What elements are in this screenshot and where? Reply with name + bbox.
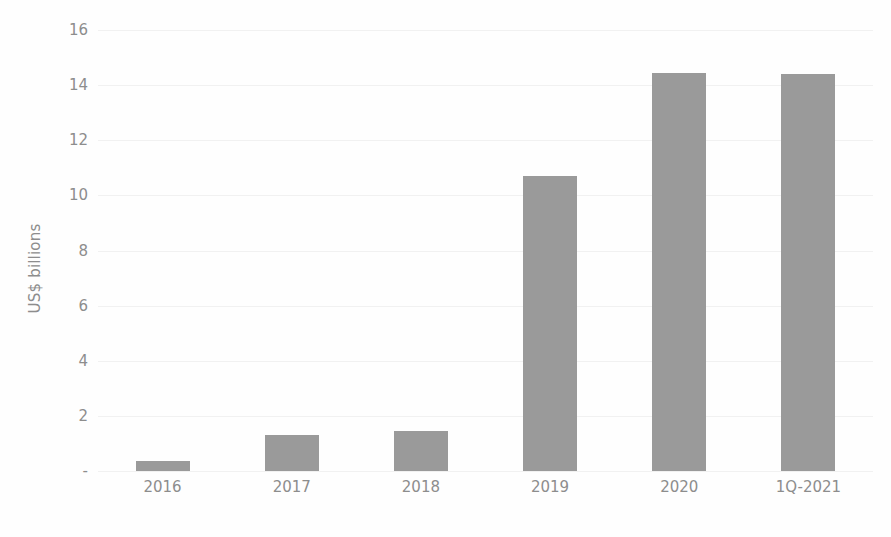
bar bbox=[136, 461, 190, 471]
y-axis-tick-label: 8 bbox=[48, 242, 88, 260]
y-axis-tick-label: 14 bbox=[48, 76, 88, 94]
x-axis-tick-label: 2017 bbox=[273, 478, 311, 496]
x-axis-tick-label: 2018 bbox=[402, 478, 440, 496]
x-axis-tick-label: 1Q-2021 bbox=[776, 478, 841, 496]
y-axis-tick-labels: - 246810121416 bbox=[44, 30, 88, 471]
x-axis-tick-label: 2020 bbox=[660, 478, 698, 496]
x-axis-tick-label: 2019 bbox=[531, 478, 569, 496]
bar-chart: US$ billions - 246810121416 201620172018… bbox=[0, 0, 891, 537]
gridline bbox=[98, 471, 873, 472]
bar bbox=[523, 176, 577, 471]
bar bbox=[781, 74, 835, 471]
bars-layer bbox=[98, 30, 873, 471]
x-axis-tick-labels: 201620172018201920201Q-2021 bbox=[98, 478, 873, 508]
y-axis-tick-label: - bbox=[48, 462, 88, 480]
y-axis-tick-label: 4 bbox=[48, 352, 88, 370]
bar bbox=[652, 73, 706, 471]
bar bbox=[394, 431, 448, 471]
y-axis-tick-label: 12 bbox=[48, 131, 88, 149]
y-axis-tick-label: 2 bbox=[48, 407, 88, 425]
y-axis-tick-label: 16 bbox=[48, 21, 88, 39]
y-axis-tick-label: 6 bbox=[48, 297, 88, 315]
y-axis-tick-label: 10 bbox=[48, 186, 88, 204]
x-axis-tick-label: 2016 bbox=[143, 478, 181, 496]
bar bbox=[265, 435, 319, 471]
